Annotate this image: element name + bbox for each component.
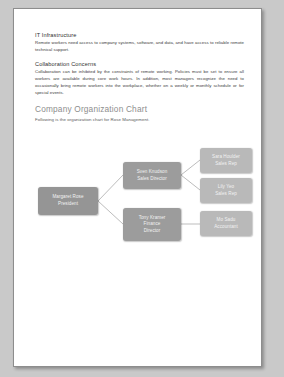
connector-president-to-sales (98, 175, 123, 201)
document-page: IT Infrastructure Remote workers need ac… (13, 8, 262, 367)
org-node-finance-director[interactable]: Tony Kramer Finance Director (123, 208, 181, 241)
chart-heading: Company Organization Chart (35, 104, 244, 114)
connector-sales-to-rep2 (181, 175, 200, 190)
section-body-it-infrastructure: Remote workers need access to company sy… (35, 40, 244, 54)
connector-president-to-finance (98, 201, 123, 224)
connector-sales-to-rep1 (181, 160, 200, 175)
org-node-president[interactable]: Margaret Rose President (38, 187, 98, 215)
org-node-sales-rep-1-title: Sales Rep (215, 161, 237, 168)
org-node-accountant-title: Accountant (214, 224, 238, 231)
org-node-sales-rep-1[interactable]: Sara Houlder Sales Rep (200, 148, 252, 173)
section-body-collaboration-concerns: Collaboration can be inhibited by the co… (35, 69, 244, 97)
org-node-sales-director-title: Sales Director (137, 176, 167, 183)
org-node-sales-rep-2-title: Sales Rep (215, 191, 237, 198)
section-heading-it-infrastructure: IT Infrastructure (35, 32, 244, 38)
paragraph-spacer (35, 54, 244, 61)
document-body: IT Infrastructure Remote workers need ac… (35, 32, 244, 122)
organization-chart: Margaret Rose President Sven Knudson Sal… (35, 145, 253, 257)
org-node-finance-director-title-line2: Director (144, 228, 161, 235)
org-node-sales-rep-2[interactable]: Lily Yeo Sales Rep (200, 178, 252, 203)
org-node-sales-director[interactable]: Sven Knudson Sales Director (123, 162, 181, 189)
section-heading-collaboration-concerns: Collaboration Concerns (35, 61, 244, 67)
section-spacer (35, 97, 244, 104)
org-node-president-title: President (58, 201, 78, 208)
org-node-accountant[interactable]: Mo Sadu Accountant (200, 211, 252, 236)
chart-intro-text: Following is the organization chart for … (35, 117, 244, 122)
